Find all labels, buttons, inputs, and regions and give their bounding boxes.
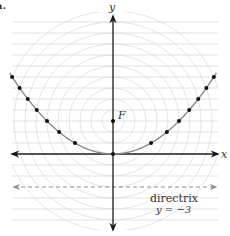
parabola-point [187,108,191,112]
parabola-point [73,141,77,145]
focus-point [111,119,115,123]
parabola-point [26,97,30,101]
directrix-equation: y = −3 [155,204,191,215]
focus-label: F [117,109,126,122]
parabola-point [177,119,181,123]
parabola-point [212,75,216,79]
parabola-point [57,130,61,134]
y-axis-label: y [108,1,116,14]
parabola-point [149,141,153,145]
parabola-point [45,119,49,123]
parabola-focus-directrix-diagram: a. F y x directrix y = −3 [0,0,230,236]
x-axis-label: x [221,148,228,161]
parabola-point [35,108,39,112]
part-label: a. [0,0,6,11]
parabola-point [196,97,200,101]
parabola-point [10,75,14,79]
parabola-point [111,152,115,156]
parabola-point [18,86,22,90]
parabola-point [204,86,208,90]
parabola-point [165,130,169,134]
